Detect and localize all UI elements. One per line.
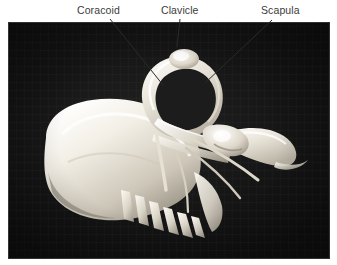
- label-clavicle: Clavicle: [161, 4, 199, 16]
- skeleton-photograph: [8, 22, 330, 259]
- label-coracoid: Coracoid: [77, 4, 120, 16]
- photo-vignette: [8, 22, 330, 259]
- label-scapula: Scapula: [261, 4, 300, 16]
- anatomy-figure: Coracoid Clavicle Scapula: [0, 0, 337, 265]
